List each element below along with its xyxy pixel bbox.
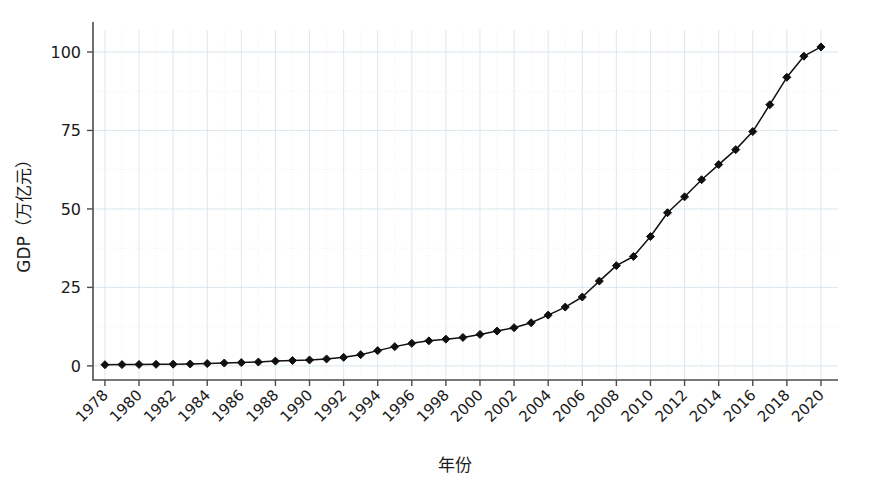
y-tick-label: 75 bbox=[61, 121, 81, 140]
x-axis-title: 年份 bbox=[438, 455, 472, 475]
y-axis-title: GDP（万亿元） bbox=[14, 151, 34, 273]
figure-background bbox=[0, 0, 870, 499]
y-tick-label: 100 bbox=[50, 43, 81, 62]
y-tick-label: 50 bbox=[61, 200, 81, 219]
gdp-line-chart: 1978198019821984198619881990199219941996… bbox=[0, 0, 870, 499]
y-tick-label: 25 bbox=[61, 278, 81, 297]
y-tick-label: 0 bbox=[71, 357, 81, 376]
